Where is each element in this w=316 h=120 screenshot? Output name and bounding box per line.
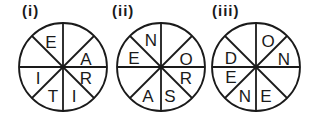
wheel-letter: S [164,87,175,106]
letter-wheels: E A R I T I N E O R S A O N D E N E [0,0,316,120]
wheel-letter: O [179,50,192,69]
wheel-letter: O [261,32,274,51]
wheel-letter: I [36,69,41,88]
wheel-letter: N [145,31,157,50]
wheel-letter: I [72,87,77,106]
wheel-letter: A [80,50,92,69]
wheel-letter: E [45,33,56,52]
wheel-letter: N [239,87,251,106]
wheel-letter: D [225,49,237,68]
wheel-letter: R [180,69,192,88]
letter-wheel-1 [19,23,107,111]
wheel-letter: T [48,87,58,106]
wheel-letter: R [80,69,92,88]
wheel-letter: N [278,50,290,69]
wheel-letter: E [225,68,236,87]
wheel-letter: E [260,87,271,106]
wheel-letter: A [142,87,154,106]
wheel-letter: E [128,49,139,68]
